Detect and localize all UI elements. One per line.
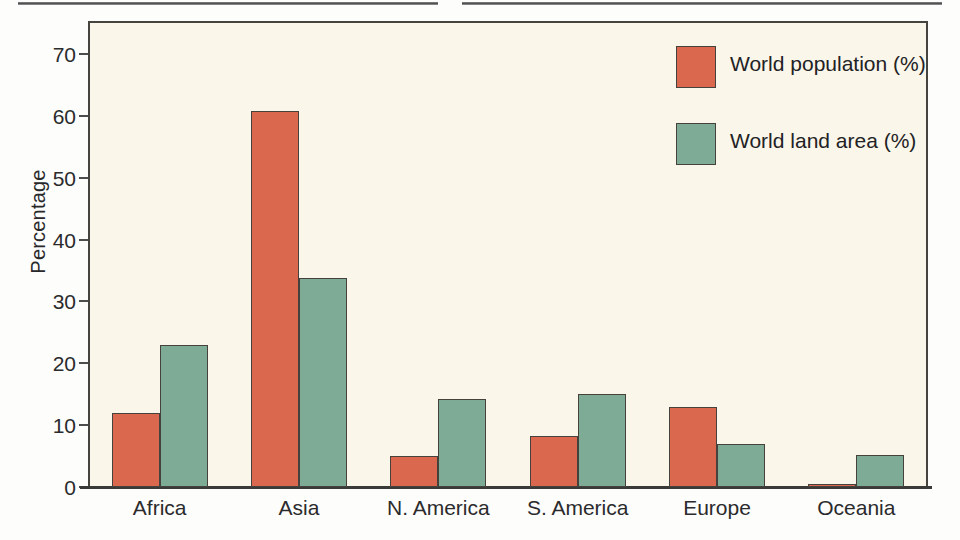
bar-land-area	[160, 345, 208, 487]
x-axis-label-n-america: N. America	[387, 496, 490, 520]
y-tick-label-40: 40	[34, 229, 76, 250]
x-axis-label-africa: Africa	[133, 496, 187, 520]
bar-group-s-america	[530, 23, 626, 487]
y-tick-label-60: 60	[34, 105, 76, 126]
bar-population	[530, 436, 578, 487]
x-axis-label-asia: Asia	[279, 496, 320, 520]
bar-group-africa	[112, 23, 208, 487]
bar-population	[251, 111, 299, 487]
x-axis-label-oceania: Oceania	[817, 496, 895, 520]
y-tick-label-20: 20	[34, 353, 76, 374]
bar-land-area	[578, 394, 626, 487]
y-axis-title: Percentage	[27, 132, 50, 312]
bar-land-area	[856, 455, 904, 487]
x-axis-label-s-america: S. America	[527, 496, 629, 520]
bar-land-area	[438, 399, 486, 487]
legend-label: World population (%)	[730, 52, 926, 76]
page-rule-right	[462, 2, 942, 5]
bar-group-asia	[251, 23, 347, 487]
y-tick-label-0: 0	[34, 477, 76, 498]
bar-land-area	[299, 278, 347, 487]
y-tick-label-70: 70	[34, 43, 76, 64]
y-tick-label-10: 10	[34, 415, 76, 436]
bar-population	[112, 413, 160, 487]
legend-label: World land area (%)	[730, 129, 916, 153]
bar-group-oceania	[808, 23, 904, 487]
x-axis-label-europe: Europe	[683, 496, 751, 520]
y-tick-label-50: 50	[34, 167, 76, 188]
bar-group-n-america	[390, 23, 486, 487]
chart-figure: Percentage 010203040506070 AfricaAsiaN. …	[0, 0, 960, 540]
bar-population	[808, 484, 856, 487]
bar-population	[390, 456, 438, 487]
bar-population	[669, 407, 717, 487]
y-tick-label-30: 30	[34, 291, 76, 312]
plot-area	[90, 23, 926, 487]
bar-group-europe	[669, 23, 765, 487]
land-area-swatch-icon	[676, 123, 716, 165]
population-swatch-icon	[676, 46, 716, 88]
bar-land-area	[717, 444, 765, 487]
page-rule-left	[18, 2, 438, 5]
